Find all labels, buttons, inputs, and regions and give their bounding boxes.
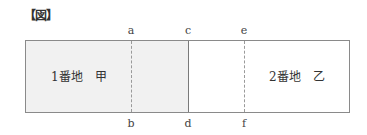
parcel-2-label: 2番地 乙 [269,71,325,83]
label-b: b [127,118,134,129]
land-plot-rectangle: 1番地 甲 2番地 乙 [25,40,350,113]
label-d: d [184,118,191,129]
line-e-f-dashed [244,41,245,112]
figure-caption: 【図】 [24,6,57,23]
label-f: f [242,118,246,129]
line-c-d-solid [188,41,189,112]
label-a: a [128,25,135,36]
label-c: c [185,25,191,36]
line-a-b-dashed [131,41,132,112]
label-e: e [241,25,248,36]
parcel-1-label: 1番地 甲 [51,71,107,83]
